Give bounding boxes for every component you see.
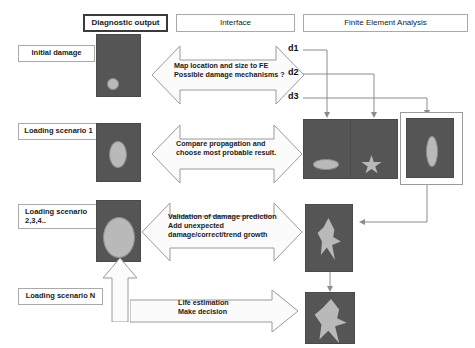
diagnostic-panel-scenario-234 <box>96 200 141 262</box>
column-header-diagnostic-output: Diagnostic output <box>83 14 168 32</box>
fe-panel-d2 <box>350 119 398 179</box>
diagram-canvas: Diagnostic output Interface Finite Eleme… <box>0 0 475 348</box>
fe-panel-d1 <box>303 119 351 179</box>
damage-spot-large-ellipse <box>103 217 135 258</box>
stage-label-loading-scenario-234: Loading scenario 2,3,4.. <box>18 204 99 229</box>
wire-d2 <box>303 74 374 114</box>
wire-d1 <box>303 50 327 114</box>
wire-d3 <box>303 98 427 112</box>
column-header-finite-element-analysis: Finite Element Analysis <box>303 14 468 32</box>
wire-selected-to-growth <box>363 185 427 222</box>
fe-damage-star <box>361 155 382 175</box>
stage-label-loading-scenario-1: Loading scenario 1 <box>18 123 99 140</box>
damage-spot-small-ellipse <box>109 141 127 168</box>
damage-candidate-label-d1: d1 <box>288 43 299 53</box>
interface-arrow-validation <box>142 198 302 266</box>
fe-panel-growth <box>305 204 353 272</box>
interface-arrow-compare-propagation <box>152 120 302 188</box>
column-header-interface: Interface <box>176 14 295 32</box>
diagnostic-panel-scenario-1 <box>96 123 141 182</box>
stage-label-initial-damage: Initial damage <box>18 45 95 62</box>
fe-panel-final <box>305 292 355 344</box>
fe-panel-d3 <box>406 118 454 178</box>
interface-arrow-map-location <box>152 40 304 110</box>
fe-damage-teardrop <box>316 218 343 260</box>
stage-label-loading-scenario-n: Loading scenario N <box>18 288 103 305</box>
fe-damage-vertical-ellipse <box>426 136 438 167</box>
damage-candidate-label-d2: d2 <box>288 67 299 77</box>
fe-damage-large-teardrop <box>314 299 348 343</box>
fe-damage-horizontal-ellipse <box>313 159 339 170</box>
interface-arrow-life-estimation <box>130 290 298 332</box>
diagnostic-panel-initial <box>96 34 141 97</box>
damage-spot-small-circle <box>107 78 119 90</box>
damage-candidate-label-d3: d3 <box>288 91 299 101</box>
